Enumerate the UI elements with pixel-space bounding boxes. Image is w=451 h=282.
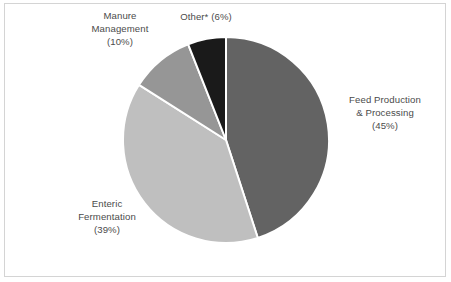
slice-label-enteric-fermentation: Enteric Fermentation (39%) <box>48 197 166 237</box>
slice-label-other: Other* (6%) <box>151 10 261 23</box>
slice-label-feed-production: Feed Production & Processing (45%) <box>327 93 443 133</box>
pie-chart-figure: Feed Production & Processing (45%)Enteri… <box>0 0 451 282</box>
